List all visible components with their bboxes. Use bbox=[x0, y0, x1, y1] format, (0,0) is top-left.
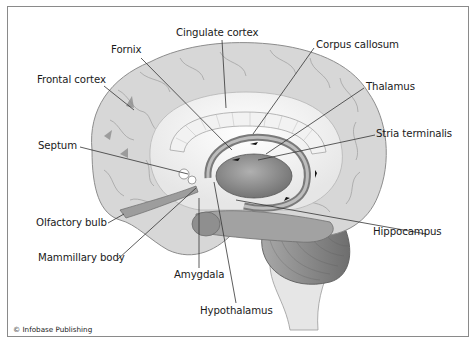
label-mammillary-body: Mammillary body bbox=[38, 253, 125, 263]
copyright-credit: © Infobase Publishing bbox=[13, 325, 92, 334]
brain-illustration bbox=[0, 0, 476, 347]
label-amygdala: Amygdala bbox=[174, 270, 224, 280]
label-olfactory-bulb: Olfactory bulb bbox=[36, 218, 107, 228]
label-fornix: Fornix bbox=[111, 45, 141, 55]
label-stria-terminalis: Stria terminalis bbox=[376, 129, 452, 139]
thalamus-shape bbox=[216, 154, 292, 198]
amygdala-shape bbox=[192, 212, 220, 236]
label-hippocampus: Hippocampus bbox=[373, 227, 442, 237]
label-thalamus: Thalamus bbox=[366, 82, 415, 92]
label-corpus-callosum: Corpus callosum bbox=[316, 40, 399, 50]
label-frontal-cortex: Frontal cortex bbox=[37, 75, 106, 85]
label-hypothalamus: Hypothalamus bbox=[200, 306, 273, 316]
label-cingulate-cortex: Cingulate cortex bbox=[176, 28, 258, 38]
label-septum: Septum bbox=[38, 141, 77, 151]
